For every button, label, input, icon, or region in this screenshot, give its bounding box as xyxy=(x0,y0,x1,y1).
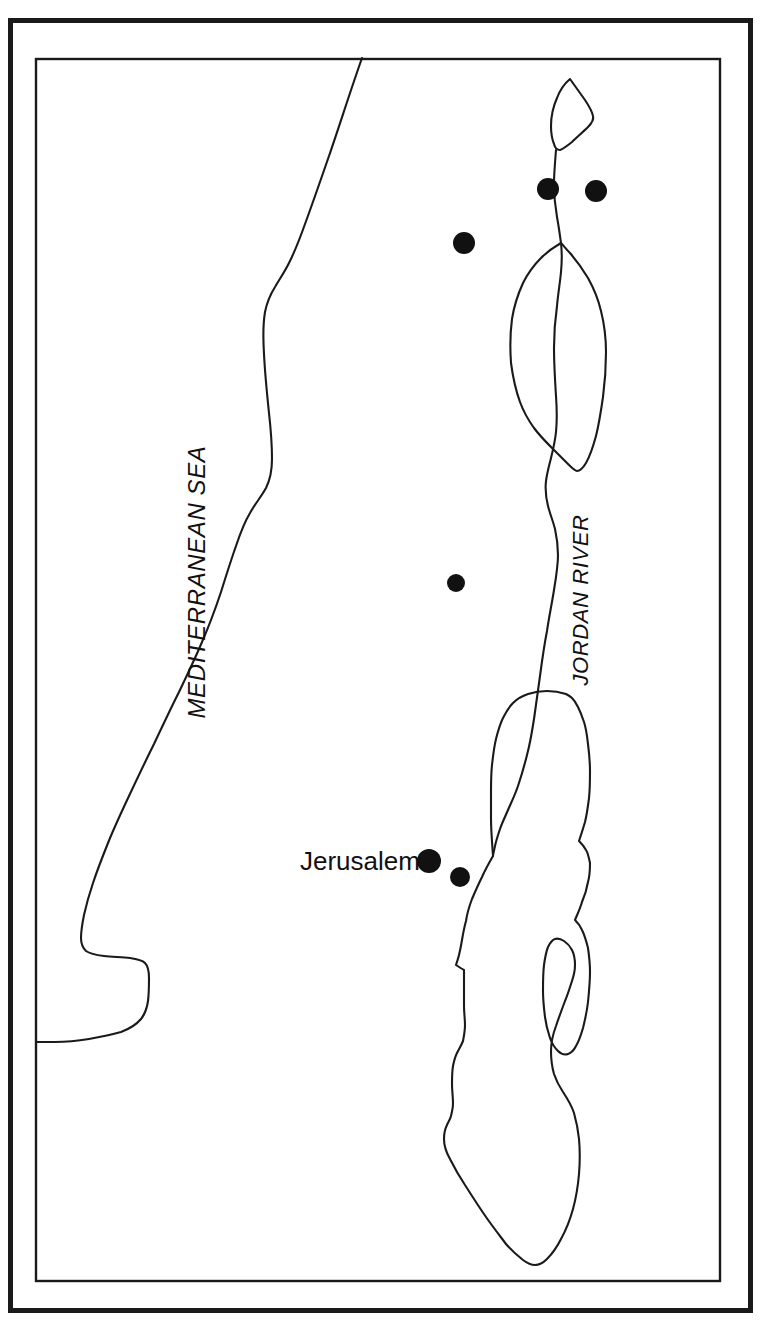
label-jerusalem: Jerusalem xyxy=(300,846,420,876)
city-marker-site-6[interactable] xyxy=(450,867,470,887)
city-marker-jerusalem[interactable] xyxy=(417,849,441,873)
inner-frame-border xyxy=(36,59,720,1281)
label-mediterranean-sea: MEDITERRANEAN SEA xyxy=(183,446,210,719)
jordan-river-course xyxy=(493,150,562,856)
city-marker-site-4[interactable] xyxy=(447,574,465,592)
outer-frame-border xyxy=(11,21,751,1311)
lake-huleh-outline xyxy=(551,79,593,150)
city-marker-site-2[interactable] xyxy=(585,180,607,202)
label-jordan-river: JORDAN RIVER xyxy=(568,515,593,687)
city-marker-site-1[interactable] xyxy=(537,178,559,200)
map-figure: MEDITERRANEAN SEA JORDAN RIVER Jerusalem xyxy=(0,0,764,1343)
map-canvas: MEDITERRANEAN SEA JORDAN RIVER Jerusalem xyxy=(0,0,764,1343)
city-marker-site-3[interactable] xyxy=(453,232,475,254)
dead-sea-outline xyxy=(444,691,590,1265)
sea-of-galilee-outline xyxy=(510,243,606,471)
